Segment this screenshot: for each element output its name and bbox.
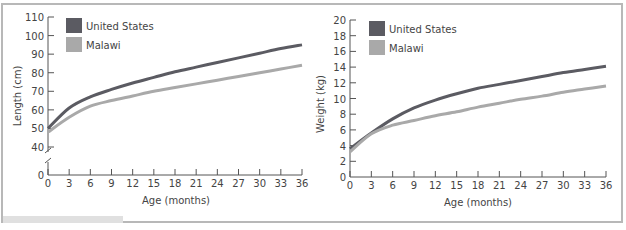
svg-text:50: 50 [31, 123, 44, 134]
svg-text:36: 36 [600, 180, 613, 191]
malawi-weight-line [350, 86, 606, 152]
svg-text:40: 40 [31, 142, 44, 153]
x-axis-label: Age (months) [444, 197, 512, 208]
svg-text:0: 0 [45, 178, 51, 189]
legend-malawi-swatch [369, 40, 385, 55]
legend-malawi-label: Malawi [389, 43, 424, 54]
weight-chart: 024681012141618200369121518212427303336 … [315, 15, 612, 208]
svg-text:30: 30 [557, 180, 570, 191]
svg-text:18: 18 [333, 31, 346, 42]
svg-text:27: 27 [232, 178, 245, 189]
svg-text:90: 90 [31, 49, 44, 60]
svg-text:9: 9 [108, 178, 114, 189]
svg-text:36: 36 [296, 178, 309, 189]
svg-text:70: 70 [31, 86, 44, 97]
svg-text:27: 27 [536, 180, 549, 191]
legend-malawi-swatch [66, 37, 82, 52]
svg-text:21: 21 [493, 180, 506, 191]
y-axis-label: Length (cm) [12, 66, 23, 127]
svg-text:30: 30 [253, 178, 266, 189]
svg-text:80: 80 [31, 68, 44, 79]
svg-text:15: 15 [450, 180, 463, 191]
svg-text:0: 0 [38, 170, 44, 181]
svg-text:110: 110 [25, 12, 44, 23]
svg-text:24: 24 [211, 178, 224, 189]
svg-text:3: 3 [66, 178, 72, 189]
svg-text:24: 24 [514, 180, 527, 191]
charts-svg: 0405060708090100110036912151821242730333… [0, 0, 626, 230]
svg-text:10: 10 [333, 94, 346, 105]
svg-text:0: 0 [340, 172, 346, 183]
svg-text:6: 6 [389, 180, 395, 191]
svg-text:0: 0 [347, 180, 353, 191]
legend-us-label: United States [86, 21, 154, 32]
svg-text:3: 3 [368, 180, 374, 191]
length-chart: 0405060708090100110036912151821242730333… [12, 12, 308, 206]
svg-text:12: 12 [126, 178, 139, 189]
legend-us-label: United States [389, 24, 457, 35]
svg-text:21: 21 [190, 178, 203, 189]
svg-text:2: 2 [340, 156, 346, 167]
svg-text:18: 18 [169, 178, 182, 189]
svg-text:60: 60 [31, 105, 44, 116]
svg-text:100: 100 [25, 31, 44, 42]
legend-us-swatch [369, 21, 385, 36]
svg-text:9: 9 [411, 180, 417, 191]
svg-text:16: 16 [333, 46, 346, 57]
legend-malawi-label: Malawi [86, 40, 121, 51]
svg-text:33: 33 [578, 180, 591, 191]
svg-text:33: 33 [274, 178, 287, 189]
x-axis-label: Age (months) [142, 195, 210, 206]
svg-text:14: 14 [333, 62, 346, 73]
svg-text:8: 8 [340, 109, 346, 120]
svg-text:4: 4 [340, 141, 346, 152]
svg-text:6: 6 [340, 125, 346, 136]
svg-text:18: 18 [472, 180, 485, 191]
svg-text:6: 6 [87, 178, 93, 189]
svg-text:12: 12 [333, 78, 346, 89]
svg-text:20: 20 [333, 15, 346, 26]
legend-us-swatch [66, 18, 82, 33]
svg-text:12: 12 [429, 180, 442, 191]
svg-text:15: 15 [147, 178, 160, 189]
y-axis-label: Weight (kg) [315, 75, 326, 133]
